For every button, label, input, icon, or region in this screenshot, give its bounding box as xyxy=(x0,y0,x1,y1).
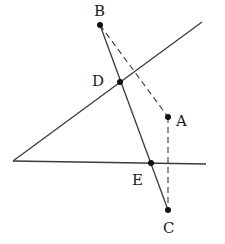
lower-ray xyxy=(13,161,206,164)
label-E: E xyxy=(132,171,143,189)
point-D xyxy=(117,79,123,85)
point-C xyxy=(165,207,171,213)
diagram-svg: B D A E C xyxy=(0,0,225,244)
point-A xyxy=(165,114,171,120)
label-D: D xyxy=(92,72,104,90)
upper-ray xyxy=(13,22,202,161)
label-A: A xyxy=(175,112,187,130)
geometry-diagram: B D A E C xyxy=(0,0,225,244)
point-B xyxy=(97,22,103,28)
label-C: C xyxy=(163,219,174,237)
segment-BA-dashed xyxy=(100,25,168,117)
point-E xyxy=(148,160,154,166)
label-B: B xyxy=(94,2,105,20)
